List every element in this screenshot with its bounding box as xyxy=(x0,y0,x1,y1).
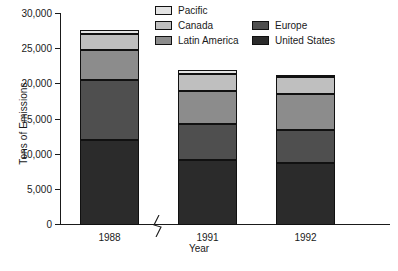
y-axis-tick-mark xyxy=(55,13,60,14)
legend-column-left: PacificCanadaLatin America xyxy=(155,3,239,48)
legend-swatch-icon xyxy=(252,36,269,45)
stacked-bar xyxy=(178,70,237,225)
bar-segment-europe xyxy=(80,80,139,140)
bar-segment-europe xyxy=(276,130,335,163)
legend-label: Latin America xyxy=(178,35,239,46)
y-axis-line xyxy=(60,13,61,225)
chart-legend: PacificCanadaLatin America EuropeUnited … xyxy=(155,3,390,49)
x-axis-tick-label: 1992 xyxy=(294,232,316,243)
stacked-bar xyxy=(80,30,139,225)
y-axis-tick-mark xyxy=(55,189,60,190)
legend-label: Pacific xyxy=(178,5,207,16)
legend-item: Canada xyxy=(155,18,239,33)
legend-item: United States xyxy=(252,33,335,48)
x-axis-tick-label: 1991 xyxy=(196,232,218,243)
y-axis-tick-mark xyxy=(55,154,60,155)
legend-label: Europe xyxy=(275,20,307,31)
y-axis-tick-mark xyxy=(55,119,60,120)
y-axis-tick-label: 0 xyxy=(46,219,52,230)
bar-segment-united-states xyxy=(276,163,335,225)
bar-segment-canada xyxy=(276,77,335,94)
bar-segment-pacific xyxy=(276,75,335,77)
y-axis-tick-label: 30,000 xyxy=(21,8,52,19)
bar-segment-europe xyxy=(178,124,237,160)
stacked-bar xyxy=(276,75,335,225)
legend-label: Canada xyxy=(178,20,213,31)
y-axis-tick-label: 5,000 xyxy=(27,183,52,194)
legend-swatch-icon xyxy=(252,21,269,30)
legend-swatch-icon xyxy=(155,21,172,30)
legend-swatch-icon xyxy=(155,6,172,15)
bar-segment-pacific xyxy=(178,70,237,74)
legend-item: Pacific xyxy=(155,3,239,18)
bar-segment-pacific xyxy=(80,30,139,34)
axis-break-icon xyxy=(148,215,168,237)
y-axis-tick-label: 10,000 xyxy=(21,148,52,159)
legend-item: Europe xyxy=(252,18,335,33)
x-axis-title: Year xyxy=(0,243,398,254)
bar-segment-united-states xyxy=(178,160,237,225)
y-axis-tick-label: 15,000 xyxy=(21,113,52,124)
y-axis-tick-mark xyxy=(55,48,60,49)
bar-segment-latin-america xyxy=(178,91,237,125)
legend-item: Latin America xyxy=(155,33,239,48)
bar-segment-united-states xyxy=(80,140,139,225)
legend-swatch-icon xyxy=(155,36,172,45)
bar-segment-latin-america xyxy=(80,50,139,80)
bar-segment-canada xyxy=(80,34,139,49)
bar-segment-latin-america xyxy=(276,94,335,130)
legend-column-right: EuropeUnited States xyxy=(252,18,335,48)
y-axis-tick-mark xyxy=(55,83,60,84)
bar-segment-canada xyxy=(178,74,237,91)
x-axis-tick-label: 1988 xyxy=(98,232,120,243)
emissions-stacked-bar-chart: Tons of Emissions 05,00010,00015,00020,0… xyxy=(0,0,398,271)
y-axis-tick-mark xyxy=(55,224,60,225)
legend-label: United States xyxy=(275,35,335,46)
y-axis-tick-label: 20,000 xyxy=(21,78,52,89)
y-axis-tick-label: 25,000 xyxy=(21,43,52,54)
